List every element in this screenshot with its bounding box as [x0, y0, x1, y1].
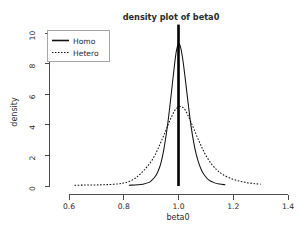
y-axis: 0246810 density	[10, 31, 50, 191]
x-axis: 0.60.81.01.21.4 beta0	[63, 195, 294, 223]
x-tick-label: 1.0	[172, 202, 184, 211]
y-tick-label: 10	[28, 31, 37, 41]
y-tick-label: 8	[28, 64, 37, 69]
x-tick-label: 1.2	[227, 202, 239, 211]
chart-canvas: density plot of beta0 0246810 density 0.…	[0, 0, 302, 232]
x-tick-label-group: 0.60.81.01.21.4	[63, 202, 294, 211]
x-tick-group	[69, 195, 288, 200]
density-curve-homo	[129, 44, 225, 186]
y-tick-label: 2	[28, 155, 37, 160]
y-tick-label: 6	[28, 94, 37, 99]
legend: Homo Hetero	[48, 31, 110, 62]
x-axis-label: beta0	[166, 213, 189, 222]
y-tick-label-group: 0246810	[28, 31, 37, 191]
density-plot-figure: density plot of beta0 0246810 density 0.…	[0, 0, 302, 232]
y-axis-label: density	[10, 97, 19, 127]
legend-label-hetero: Hetero	[73, 49, 99, 58]
x-tick-label: 0.6	[63, 202, 75, 211]
legend-label-homo: Homo	[73, 37, 96, 46]
x-tick-label: 1.4	[282, 202, 294, 211]
y-tick-label: 4	[28, 125, 37, 130]
y-tick-label: 0	[28, 186, 37, 191]
x-tick-label: 0.8	[118, 202, 130, 211]
density-curve-hetero	[74, 106, 260, 185]
chart-title: density plot of beta0	[123, 12, 220, 22]
